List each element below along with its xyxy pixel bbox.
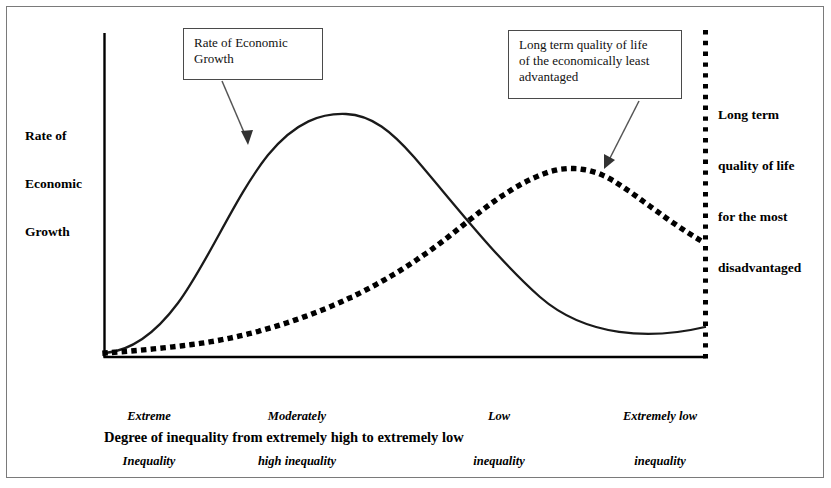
x-tick-extremely-low-inequality: Extremely low inequality <box>585 379 735 488</box>
x-tick-3-line2: inequality <box>434 454 564 469</box>
y-axis-label-line2: Economic <box>25 176 82 192</box>
series-long-term-quality-of-life <box>105 169 705 353</box>
callout-quality-line2: of the economically least <box>519 53 672 69</box>
x-tick-3-line1: Low <box>434 409 564 424</box>
x-tick-4-line2: inequality <box>585 454 735 469</box>
callout-long-term-quality-of-life: Long term quality of life of the economi… <box>508 30 682 99</box>
x-tick-1-line1: Extreme <box>94 409 204 424</box>
callout-growth-line1: Rate of Economic <box>194 35 313 51</box>
y-axis-label-line3: Growth <box>25 224 82 240</box>
right-axis-label-line1: Long term <box>718 106 801 123</box>
y-axis-label-line1: Rate of <box>25 128 82 144</box>
right-axis-label-line4: disadvantaged <box>718 259 801 276</box>
right-axis-label: Long term quality of life for the most d… <box>718 72 801 310</box>
callout-rate-of-economic-growth: Rate of Economic Growth <box>183 28 323 80</box>
x-tick-1-line2: Inequality <box>94 454 204 469</box>
x-tick-4-line1: Extremely low <box>585 409 735 424</box>
y-axis-label: Rate of Economic Growth <box>25 96 82 272</box>
callout-growth-line2: Growth <box>194 51 313 67</box>
annotation-arrow-growth <box>222 81 253 145</box>
annotation-arrow-quality <box>604 101 639 169</box>
figure-page: Rate of Economic Growth Long term qualit… <box>0 0 831 488</box>
x-tick-2-line2: high inequality <box>227 454 367 469</box>
right-axis-label-line3: for the most <box>718 208 801 225</box>
callout-quality-line3: advantaged <box>519 69 672 85</box>
x-axis-title: Degree of inequality from extremely high… <box>104 429 464 446</box>
callout-quality-line1: Long term quality of life <box>519 37 672 53</box>
right-axis-label-line2: quality of life <box>718 157 801 174</box>
x-tick-2-line1: Moderately <box>227 409 367 424</box>
